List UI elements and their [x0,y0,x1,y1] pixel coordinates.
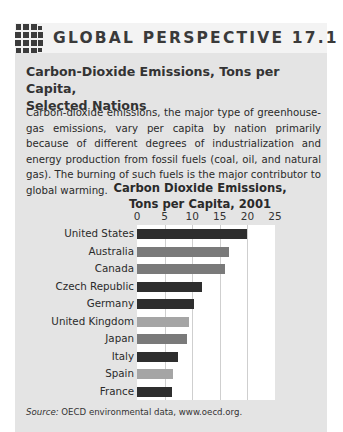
source-note: Source: OECD environmental data, www.oec… [26,407,242,417]
bar [137,264,225,274]
source-label: Source: [26,407,59,417]
bar [137,299,194,309]
bar [137,387,172,397]
x-tick-label: 10 [182,210,202,222]
bar [137,352,178,362]
gridline [247,225,248,400]
bar [137,282,202,292]
bar [137,247,229,257]
category-label: France [100,385,134,397]
x-tick-label: 15 [210,210,230,222]
category-label: Canada [95,262,134,274]
category-label: Australia [88,245,134,257]
bar [137,317,189,327]
category-label: Japan [105,332,134,344]
category-label: Germany [87,297,134,309]
subtitle-line-1: Carbon-Dioxide Emissions, Tons per Capit… [26,63,316,97]
bar [137,229,247,239]
globe-icon [15,23,44,54]
chart-title-line-1: Carbon Dioxide Emissions, [100,180,300,196]
x-tick-label: 20 [237,210,257,222]
category-label: United States [64,227,134,239]
bar [137,334,187,344]
section-title: GLOBAL PERSPECTIVE 17.1 [53,29,339,47]
x-tick-label: 5 [155,210,175,222]
category-label: Spain [105,367,134,379]
x-tick-label: 0 [127,210,147,222]
category-label: Czech Republic [56,280,134,292]
source-text: OECD environmental data, www.oecd.org. [59,407,243,417]
chart-title: Carbon Dioxide Emissions, Tons per Capit… [100,180,300,212]
bar [137,369,173,379]
category-label: Italy [112,350,134,362]
x-tick-label: 25 [265,210,285,222]
category-label: United Kingdom [51,315,134,327]
